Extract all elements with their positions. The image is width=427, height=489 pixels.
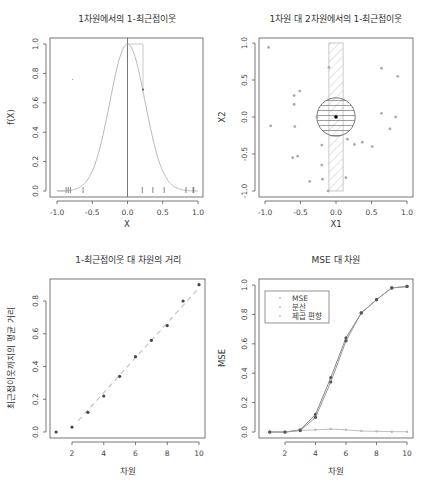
plot-frame xyxy=(50,38,203,197)
data-point xyxy=(269,124,272,127)
series-point-2 xyxy=(268,430,271,433)
y-tick-label: 0.2 xyxy=(240,396,249,408)
series-point-1 xyxy=(406,431,408,433)
data-point xyxy=(86,411,89,414)
data-point xyxy=(291,156,294,159)
data-point xyxy=(308,180,311,183)
data-point xyxy=(118,375,121,378)
y-tick-label: 0.8 xyxy=(31,67,40,79)
data-point xyxy=(150,339,153,342)
data-point xyxy=(296,155,299,158)
x-tick-label: 10 xyxy=(402,449,412,458)
plot-area xyxy=(267,43,399,192)
legend-label: 분산 xyxy=(292,302,306,312)
data-point xyxy=(380,112,383,115)
chart-title: 1차원 대 2차원에서의 1-최근접이웃 xyxy=(269,13,402,24)
series-point-2 xyxy=(344,339,347,342)
series-point-1 xyxy=(314,429,316,431)
figure-canvas: 1차원에서의 1-최근접이웃-1.0-0.50.00.51.0X0.00.20.… xyxy=(0,0,427,489)
series-point-2 xyxy=(314,416,317,419)
chart-panel-3: 1-최근접이웃 대 차원의 거리246810차원0.00.20.40.60.8최… xyxy=(6,254,205,476)
y-tick-label: 0.4 xyxy=(240,367,249,379)
y-tick-label: 0.0 xyxy=(240,426,249,438)
data-point xyxy=(321,178,324,181)
legend: MSE분산제곱 편향 xyxy=(265,291,329,323)
y-axis-label: X2 xyxy=(217,111,227,122)
series-point-1 xyxy=(375,430,377,432)
plot-area: MSE분산제곱 편향 xyxy=(265,285,409,434)
x-axis-label: 차원 xyxy=(328,466,344,476)
x-tick-label: 2 xyxy=(283,449,288,458)
target-point xyxy=(334,115,338,119)
y-tick-label: 0.8 xyxy=(240,308,249,320)
chart-panel-2: 1차원 대 2차원에서의 1-최근접이웃-1.0-0.50.00.51.0X1-… xyxy=(217,13,413,229)
x-axis-label: X xyxy=(124,219,130,229)
legend-marker xyxy=(279,297,281,299)
series-point-1 xyxy=(330,428,332,430)
x-tick-label: 0.0 xyxy=(330,208,342,217)
x-tick-label: 0.5 xyxy=(366,208,378,217)
x-tick-label: 2 xyxy=(70,449,75,458)
x-tick-label: 6 xyxy=(133,449,138,458)
data-point xyxy=(102,394,105,397)
data-point xyxy=(371,145,374,148)
x-tick-label: 4 xyxy=(313,449,318,458)
series-point-2 xyxy=(360,311,363,314)
x-axis-label: 차원 xyxy=(120,466,136,476)
data-point xyxy=(197,283,200,286)
series-point-2 xyxy=(283,430,286,433)
data-point xyxy=(380,67,383,70)
legend-label: MSE xyxy=(292,294,308,303)
series-point-2 xyxy=(375,298,378,301)
y-tick-label: 0.6 xyxy=(31,97,40,109)
data-point xyxy=(293,125,296,128)
x-axis-label: X1 xyxy=(330,219,341,229)
series-point-1 xyxy=(345,429,347,431)
y-tick-label: 0.4 xyxy=(31,126,40,138)
series-point-2 xyxy=(390,286,393,289)
chart-title: 1차원에서의 1-최근접이웃 xyxy=(78,13,176,24)
chart-panel-4: MSE 대 차원246810차원0.00.20.40.60.81.0MSEMSE… xyxy=(217,254,413,476)
y-axis: 0.00.20.40.60.8최근접이웃까지의 평균 거리 xyxy=(6,295,46,438)
trend-line xyxy=(78,288,199,421)
y-tick-label: 0.6 xyxy=(31,328,40,340)
y-tick-label: 0.0 xyxy=(31,426,40,438)
y-tick-label: 0.8 xyxy=(31,295,40,307)
x-tick-label: -0.5 xyxy=(293,208,308,217)
data-point xyxy=(182,299,185,302)
y-tick-label: 0.4 xyxy=(31,360,40,372)
neighbor-box xyxy=(128,44,144,91)
data-point xyxy=(70,425,73,428)
data-point xyxy=(361,141,364,144)
y-axis-label: MSE xyxy=(217,349,227,367)
y-tick-label: 0.0 xyxy=(31,185,40,197)
data-point xyxy=(166,324,169,327)
x-tick-label: 0.5 xyxy=(157,208,169,217)
legend-marker xyxy=(279,306,281,308)
y-axis-label: 최근접이웃까지의 평균 거리 xyxy=(6,307,16,408)
series-point-2 xyxy=(405,285,408,288)
y-tick-label: 0.2 xyxy=(31,393,40,405)
y-axis: 0.00.20.40.60.81.0f(X) xyxy=(6,38,46,197)
x-tick-label: 10 xyxy=(194,449,204,458)
y-tick-label: 0.6 xyxy=(240,338,249,350)
y-tick-label: 0.2 xyxy=(31,155,40,167)
nearest-neighbor-point xyxy=(142,89,144,91)
data-point xyxy=(320,144,323,147)
data-point xyxy=(320,164,323,167)
x-axis: -1.0-0.50.00.51.0X1 xyxy=(258,201,414,229)
plot-area xyxy=(57,38,198,197)
data-point xyxy=(346,138,349,141)
x-tick-label: 8 xyxy=(165,449,170,458)
plot-frame xyxy=(50,279,205,438)
data-point xyxy=(55,430,58,433)
x-tick-label: 1.0 xyxy=(401,208,413,217)
series-point-1 xyxy=(391,431,393,433)
y-tick-label: -1.0 xyxy=(240,183,249,198)
x-tick-label: -1.0 xyxy=(258,208,273,217)
y-tick-label: 0.5 xyxy=(240,74,249,86)
chart-panel-1: 1차원에서의 1-최근접이웃-1.0-0.50.00.51.0X0.00.20.… xyxy=(6,13,204,229)
x-axis: 246810차원 xyxy=(70,442,204,476)
x-tick-label: 8 xyxy=(374,449,379,458)
data-point xyxy=(328,66,331,69)
